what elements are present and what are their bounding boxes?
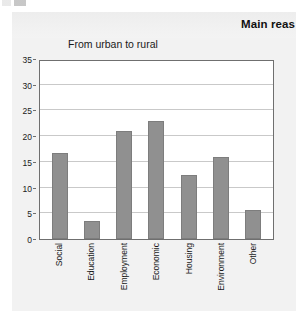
x-label-slot: Education bbox=[75, 243, 107, 305]
x-tick-label: Employment bbox=[120, 243, 129, 290]
x-label-slot: Economic bbox=[140, 243, 172, 305]
x-label-slot: Environment bbox=[205, 243, 237, 305]
y-tick-mark bbox=[33, 188, 36, 189]
bar-series bbox=[40, 61, 273, 239]
y-tick-label: 30 bbox=[23, 81, 32, 91]
bar-slot bbox=[173, 61, 205, 239]
y-axis: 05101520253035 bbox=[12, 60, 36, 240]
x-label-slot: Housing bbox=[173, 243, 205, 305]
top-cropped-artifact bbox=[2, 0, 28, 6]
bar-slot bbox=[205, 61, 237, 239]
chart-title: From urban to rural bbox=[68, 38, 158, 50]
bar-slot bbox=[237, 61, 269, 239]
bar-slot bbox=[76, 61, 108, 239]
y-tick-label: 20 bbox=[23, 132, 32, 142]
x-tick-label: Other bbox=[249, 243, 258, 264]
x-tick-label: Social bbox=[55, 243, 64, 266]
y-tick-mark bbox=[33, 239, 36, 240]
bar-environment bbox=[213, 157, 229, 239]
x-tick-label: Economic bbox=[152, 243, 161, 280]
x-tick-label: Housing bbox=[185, 243, 194, 274]
bar-social bbox=[52, 153, 68, 239]
y-tick-mark bbox=[33, 162, 36, 163]
bar-education bbox=[84, 221, 100, 239]
bar-housing bbox=[181, 175, 197, 239]
x-label-slot: Employment bbox=[108, 243, 140, 305]
bar-slot bbox=[140, 61, 172, 239]
y-tick-mark bbox=[33, 136, 36, 137]
y-tick-mark bbox=[33, 59, 36, 60]
y-tick-mark bbox=[33, 110, 36, 111]
y-tick-label: 5 bbox=[27, 209, 32, 219]
x-tick-label: Environment bbox=[217, 243, 226, 291]
y-tick-mark bbox=[33, 85, 36, 86]
y-tick-label: 15 bbox=[23, 158, 32, 168]
x-tick-label: Education bbox=[87, 243, 96, 281]
bar-employment bbox=[116, 131, 132, 239]
bar-slot bbox=[44, 61, 76, 239]
x-axis: SocialEducationEmploymentEconomicHousing… bbox=[39, 243, 274, 305]
page-title: Main reas bbox=[241, 18, 295, 30]
y-tick-mark bbox=[33, 213, 36, 214]
y-tick-label: 25 bbox=[23, 106, 32, 116]
y-tick-label: 10 bbox=[23, 184, 32, 194]
bar-slot bbox=[108, 61, 140, 239]
y-tick-label: 0 bbox=[27, 235, 32, 245]
plot-area bbox=[39, 60, 274, 240]
y-tick-label: 35 bbox=[23, 55, 32, 65]
bar-economic bbox=[148, 121, 164, 239]
x-label-slot: Social bbox=[43, 243, 75, 305]
x-label-slot: Other bbox=[238, 243, 270, 305]
bar-other bbox=[245, 210, 261, 239]
